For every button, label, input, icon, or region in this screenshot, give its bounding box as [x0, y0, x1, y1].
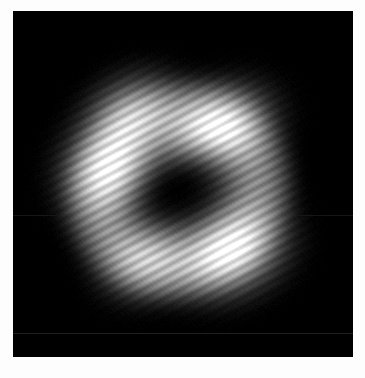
grayscale-image-canvas — [13, 11, 353, 357]
image-frame — [13, 11, 353, 357]
figure-root: grayscale-interference-micrograph Monoch… — [0, 0, 365, 378]
